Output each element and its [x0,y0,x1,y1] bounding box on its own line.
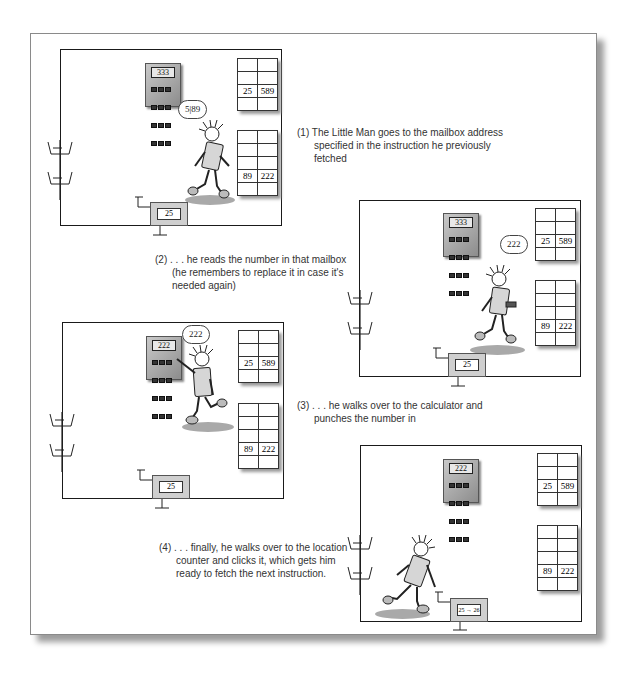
caption-number: (3) [297,400,309,411]
calculator-4: 222 [443,459,479,503]
caption-line: . . . he walks over to the calculator an… [312,400,483,411]
caption-line: ready to fetch the next instruction. [159,567,359,580]
thought-bubble-1: 5|89 [178,100,207,119]
caption-step-2: (2) . . . he reads the number in that ma… [155,253,355,292]
caption-step-1: (1) The Little Man goes to the mailbox a… [297,126,517,165]
mailbox-value: 589 [555,235,575,247]
location-counter-3: 25 [152,475,190,499]
mailbox-value: 589 [557,480,577,492]
little-man-1 [185,120,245,205]
location-counter-value: 25 [157,208,181,220]
mailbox-value: 222 [557,565,577,577]
in-out-baskets-2 [340,290,380,350]
thought-bubble-3: 222 [182,325,210,344]
mailbox-address: 25 [536,235,555,247]
mailboxes-upper-1: 25589 [237,58,278,111]
mailboxes-lower-2: 89222 [535,280,576,346]
location-counter-4: 25 → 26 [450,598,488,622]
calculator-2: 333 [443,213,479,257]
location-counter-value: 25 → 26 [457,604,481,616]
mailboxes-upper-2: 25589 [535,208,576,261]
calculator-1: 333 [145,63,181,107]
location-counter-2: 25 [448,353,486,377]
caption-line: specified in the instruction he previous… [297,139,517,152]
mailbox-address: 89 [239,443,258,455]
caption-line: punches the number in [297,412,517,425]
calculator-display: 222 [449,463,473,474]
caption-number: (2) [155,254,167,265]
mailbox-address: 25 [538,480,557,492]
thought-bubble-2: 222 [500,235,528,254]
calculator-display: 222 [152,340,176,351]
caption-step-4: (4) . . . finally, he walks over to the … [159,541,359,580]
caption-line: fetched [297,152,517,165]
calculator-display: 333 [449,217,473,228]
caption-number: (4) [159,542,171,553]
mailboxes-upper-3: 25589 [238,330,279,383]
location-counter-1: 25 [150,202,188,226]
mailbox-value: 222 [258,443,278,455]
mailbox-value: 589 [257,85,277,97]
location-counter-value: 25 [455,359,479,371]
mailboxes-lower-4: 89222 [537,525,578,591]
caption-line: . . . finally, he walks over to the loca… [174,542,347,553]
in-out-baskets-1 [40,140,80,200]
mailbox-value: 222 [555,320,575,332]
caption-number: (1) [297,127,309,138]
mailbox-address: 25 [239,357,258,369]
mailboxes-lower-3: 89222 [238,403,279,469]
mailbox-value: 589 [258,357,278,369]
in-out-baskets-3 [42,412,82,472]
caption-line: (he remembers to replace it in case it's [155,266,355,279]
caption-line: needed again) [155,279,355,292]
caption-line: . . . he reads the number in that mailbo… [170,254,346,265]
mailbox-address: 89 [536,320,555,332]
location-counter-value: 25 [159,481,183,493]
caption-line: The Little Man goes to the mailbox addre… [312,127,503,138]
calculator-display: 333 [151,67,175,78]
little-man-3 [175,345,235,430]
caption-step-3: (3) . . . he walks over to the calculato… [297,399,517,425]
caption-line: counter and clicks it, which gets him [159,554,359,567]
little-man-2 [472,265,532,350]
mailbox-address: 89 [538,565,557,577]
mailbox-address: 25 [238,85,257,97]
mailboxes-upper-4: 25589 [537,453,578,506]
mailbox-value: 222 [257,170,277,182]
